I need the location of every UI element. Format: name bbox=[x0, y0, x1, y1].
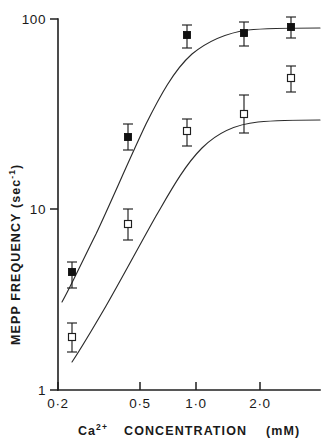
data-point bbox=[123, 124, 133, 150]
chart-svg: 100 10 1 0·2 0·5 1·0 2·0 Ca2+ CONCENTRAT… bbox=[0, 0, 326, 441]
marker-filled-square bbox=[288, 24, 295, 31]
data-point bbox=[286, 66, 296, 92]
series-open-squares bbox=[67, 66, 296, 352]
x-tick-labels: 0·2 0·5 1·0 2·0 bbox=[47, 396, 270, 411]
marker-open-square bbox=[184, 128, 191, 135]
marker-filled-square bbox=[241, 30, 248, 37]
y-tick-labels: 100 10 1 bbox=[22, 12, 46, 398]
x-axis-title-species: Ca2+ bbox=[78, 422, 108, 438]
y-tick-label-1: 1 bbox=[38, 383, 46, 398]
fitted-curve-upper bbox=[62, 28, 320, 302]
x-tick-label-0-5: 0·5 bbox=[129, 396, 150, 411]
x-axis-title-units: (mM) bbox=[266, 424, 300, 438]
series-filled-squares bbox=[67, 17, 296, 288]
y-ticks-group bbox=[50, 19, 58, 390]
data-point bbox=[239, 22, 249, 46]
marker-open-square bbox=[288, 75, 295, 82]
marker-filled-square bbox=[184, 32, 191, 39]
data-point bbox=[67, 323, 77, 352]
data-point bbox=[286, 17, 296, 38]
figure-panel: 100 10 1 0·2 0·5 1·0 2·0 Ca2+ CONCENTRAT… bbox=[0, 0, 326, 441]
x-axis-title: Ca2+ CONCENTRATION (mM) bbox=[78, 422, 300, 438]
marker-open-square bbox=[241, 111, 248, 118]
y-tick-label-10: 10 bbox=[30, 202, 46, 217]
data-point bbox=[123, 209, 133, 240]
data-point bbox=[239, 95, 249, 133]
x-axis-title-word: CONCENTRATION bbox=[124, 424, 247, 438]
axes-group bbox=[58, 19, 320, 390]
marker-filled-square bbox=[69, 269, 76, 276]
marker-open-square bbox=[69, 334, 76, 341]
data-point bbox=[182, 25, 192, 48]
x-ticks-group bbox=[58, 382, 260, 390]
y-axis-title: MEPP FREQUENCY (sec-1) bbox=[7, 164, 23, 345]
marker-filled-square bbox=[125, 134, 132, 141]
x-tick-label-1-0: 1·0 bbox=[185, 396, 206, 411]
x-tick-label-2-0: 2·0 bbox=[249, 396, 270, 411]
x-tick-label-0-2: 0·2 bbox=[47, 396, 68, 411]
y-axis-title-close: ) bbox=[9, 164, 23, 169]
x-axis-title-charge: 2+ bbox=[96, 422, 108, 432]
y-axis-title-text: MEPP FREQUENCY (sec-1) bbox=[7, 164, 23, 345]
fitted-curve-lower bbox=[72, 120, 320, 362]
y-axis-title-exponent: -1 bbox=[7, 169, 17, 179]
data-point bbox=[67, 262, 77, 288]
data-point bbox=[182, 119, 192, 146]
y-tick-label-100: 100 bbox=[22, 12, 46, 27]
marker-open-square bbox=[125, 221, 132, 228]
